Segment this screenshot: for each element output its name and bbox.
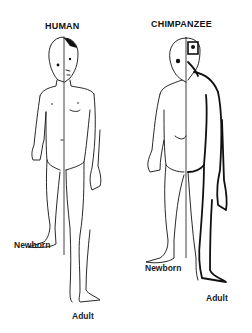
chimpanzee-adult-label: Adult: [206, 293, 228, 303]
human-figure: [28, 37, 101, 302]
chimpanzee-newborn-label: Newborn: [145, 263, 181, 273]
chimpanzee-figure: [146, 37, 227, 282]
human-adult-label: Adult: [72, 311, 94, 321]
human-newborn-label: Newborn: [14, 240, 50, 250]
comparison-diagram: [0, 0, 252, 333]
